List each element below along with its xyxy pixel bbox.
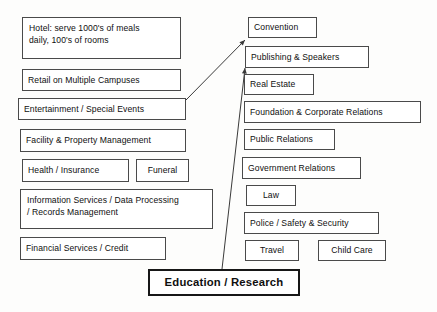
node-box[interactable]: Financial Services / Credit	[20, 237, 166, 260]
node-box[interactable]: Hotel: serve 1000's of meals daily, 100'…	[22, 17, 181, 59]
node-box[interactable]: Travel	[245, 240, 299, 261]
node-label: Entertainment / Special Events	[24, 103, 144, 115]
arrowhead-icon	[239, 40, 245, 46]
node-label: Real Estate	[250, 78, 295, 90]
node-label: Government Relations	[248, 162, 335, 174]
node-label: Convention	[254, 21, 298, 33]
node-label: Facility & Property Management	[26, 134, 151, 146]
node-label: Retail on Multiple Campuses	[28, 74, 140, 86]
node-box[interactable]: Child Care	[318, 240, 386, 261]
node-box[interactable]: Law	[246, 185, 296, 206]
node-label: Child Care	[331, 244, 372, 256]
node-label: Publishing & Speakers	[251, 51, 339, 63]
node-box[interactable]: Convention	[248, 17, 317, 38]
node-box[interactable]: Health / Insurance	[22, 159, 129, 182]
node-label: Public Relations	[250, 133, 313, 145]
node-label: Education / Research	[165, 274, 284, 290]
arrowhead-icon	[242, 68, 247, 74]
node-label: Travel	[260, 244, 284, 256]
org-diagram-canvas: Hotel: serve 1000's of meals daily, 100'…	[0, 0, 437, 312]
node-label: Health / Insurance	[28, 164, 99, 176]
node-label: Hotel: serve 1000's of meals daily, 100'…	[29, 22, 174, 47]
node-label: Financial Services / Credit	[26, 242, 128, 254]
node-box[interactable]: Facility & Property Management	[20, 129, 186, 152]
node-box[interactable]: Information Services / Data Processing /…	[20, 189, 213, 229]
node-box[interactable]: Government Relations	[242, 157, 361, 179]
node-box[interactable]: Public Relations	[244, 129, 335, 150]
root-node-education-research[interactable]: Education / Research	[148, 269, 300, 296]
node-box[interactable]: Retail on Multiple Campuses	[22, 69, 181, 91]
node-label: Law	[263, 189, 279, 201]
node-box[interactable]: Entertainment / Special Events	[18, 98, 186, 120]
node-box[interactable]: Funeral	[136, 159, 189, 182]
node-box[interactable]: Publishing & Speakers	[245, 46, 369, 68]
node-label: Foundation & Corporate Relations	[250, 106, 383, 118]
node-label: Information Services / Data Processing /…	[27, 194, 206, 219]
node-box[interactable]: Real Estate	[244, 74, 314, 95]
node-label: Police / Safety & Security	[250, 217, 349, 229]
node-box[interactable]: Foundation & Corporate Relations	[244, 101, 421, 123]
node-label: Funeral	[148, 164, 178, 176]
node-box[interactable]: Police / Safety & Security	[244, 212, 379, 234]
connector-entertainment-to-convention	[186, 40, 245, 100]
